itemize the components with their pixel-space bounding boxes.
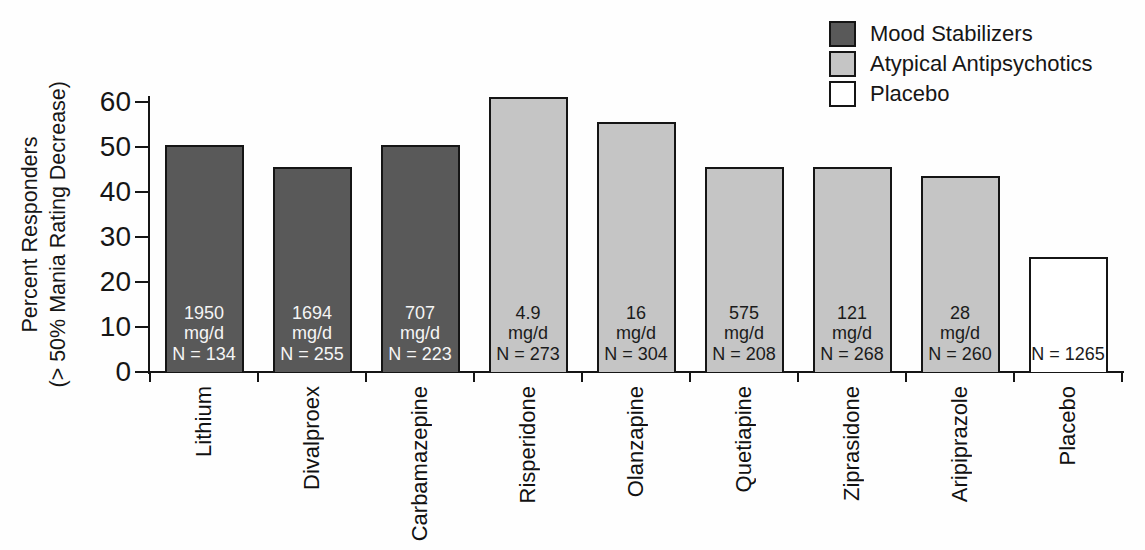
bar: 707 mg/d N = 223 <box>381 145 460 372</box>
bar-n-value: N = 304 <box>599 344 674 364</box>
bar: 1950 mg/d N = 134 <box>165 145 244 372</box>
bar-dose: 28 <box>923 303 998 323</box>
x-tick-mark <box>257 373 259 382</box>
y-axis-title-line2: (> 50% Mania Rating Decrease) <box>45 81 73 388</box>
x-tick-mark <box>689 373 691 382</box>
legend-row-atypical-antipsychotics: Atypical Antipsychotics <box>829 51 1093 77</box>
bar-inner-label: 121 mg/d N = 268 <box>815 303 890 372</box>
bar-dose: 4.9 <box>491 303 566 323</box>
y-tick-mark <box>135 326 148 328</box>
bar-n-value: N = 260 <box>923 344 998 364</box>
bar-dose-unit: mg/d <box>923 323 998 343</box>
legend-row-placebo: Placebo <box>829 81 1093 107</box>
bar: N = 1265 <box>1029 257 1108 372</box>
legend-label: Atypical Antipsychotics <box>870 51 1093 77</box>
y-tick-mark <box>135 146 148 148</box>
bar-dose-unit: mg/d <box>599 323 674 343</box>
bar-n-value: N = 223 <box>383 344 458 364</box>
x-label-column: Ziprasidone <box>798 386 906 550</box>
y-tick-label: 0 <box>76 355 131 389</box>
x-category-label: Carbamazepine <box>407 386 433 541</box>
bar-column: N = 1265 <box>1014 257 1122 372</box>
bar: 4.9 mg/d N = 273 <box>489 97 568 372</box>
bar-dose: 1950 <box>167 303 242 323</box>
y-axis-title: Percent Responders (> 50% Mania Rating D… <box>14 84 76 384</box>
bar: 575 mg/d N = 208 <box>705 167 784 372</box>
legend-label: Placebo <box>870 81 950 107</box>
x-tick-mark <box>581 373 583 382</box>
bar-dose: 16 <box>599 303 674 323</box>
y-tick-label: 50 <box>76 130 131 164</box>
y-tick-mark <box>135 371 148 373</box>
bar-inner-label: 4.9 mg/d N = 273 <box>491 303 566 372</box>
bar-column: 1950 mg/d N = 134 <box>150 145 258 372</box>
legend-swatch-mood-stabilizers <box>829 21 856 47</box>
x-axis-labels: LithiumDivalproexCarbamazepineRisperidon… <box>150 386 1122 550</box>
bar: 28 mg/d N = 260 <box>921 176 1000 372</box>
bar-inner-label: 707 mg/d N = 223 <box>383 303 458 372</box>
bar-dose: 121 <box>815 303 890 323</box>
bar-column: 4.9 mg/d N = 273 <box>474 97 582 372</box>
bar-dose-unit: mg/d <box>383 323 458 343</box>
x-category-label: Divalproex <box>299 386 325 490</box>
x-label-column: Risperidone <box>474 386 582 550</box>
x-label-column: Aripiprazole <box>906 386 1014 550</box>
bar-dose-unit: mg/d <box>815 323 890 343</box>
bar-column: 575 mg/d N = 208 <box>690 167 798 372</box>
bar-inner-label: 16 mg/d N = 304 <box>599 303 674 372</box>
bar-column: 1694 mg/d N = 255 <box>258 167 366 372</box>
x-tick-mark <box>1121 373 1123 382</box>
bar-inner-label: 28 mg/d N = 260 <box>923 303 998 372</box>
bar-dose-unit: mg/d <box>491 323 566 343</box>
legend-swatch-placebo <box>829 81 856 107</box>
bar-n-value: N = 208 <box>707 344 782 364</box>
y-tick-label: 20 <box>76 265 131 299</box>
plot-area: 0102030405060 1950 mg/d N = 134 1694 mg/… <box>148 90 1122 550</box>
bar-n-value: N = 268 <box>815 344 890 364</box>
x-label-column: Olanzapine <box>582 386 690 550</box>
bar: 1694 mg/d N = 255 <box>273 167 352 372</box>
y-tick-mark <box>135 236 148 238</box>
x-category-label: Ziprasidone <box>839 386 865 501</box>
bar-dose: 575 <box>707 303 782 323</box>
bar-inner-label: 1694 mg/d N = 255 <box>275 303 350 372</box>
legend-swatch-atypical-antipsychotics <box>829 51 856 77</box>
x-category-label: Risperidone <box>515 386 541 503</box>
y-tick-label: 30 <box>76 220 131 254</box>
x-label-column: Carbamazepine <box>366 386 474 550</box>
figure-frame: Percent Responders (> 50% Mania Rating D… <box>0 0 1145 550</box>
bar-n-value: N = 134 <box>167 344 242 364</box>
x-tick-mark <box>473 373 475 382</box>
bar-dose: 707 <box>383 303 458 323</box>
x-label-column: Placebo <box>1014 386 1122 550</box>
y-axis-title-line1: Percent Responders <box>17 81 45 388</box>
x-label-column: Divalproex <box>258 386 366 550</box>
bar-dose-unit: mg/d <box>707 323 782 343</box>
y-tick-label: 10 <box>76 310 131 344</box>
bar-dose-unit: mg/d <box>275 323 350 343</box>
x-tick-mark <box>365 373 367 382</box>
legend-label: Mood Stabilizers <box>870 21 1033 47</box>
bars-group: 1950 mg/d N = 134 1694 mg/d N = 255 707 … <box>150 90 1122 372</box>
x-category-label: Placebo <box>1055 386 1081 466</box>
bar-column: 16 mg/d N = 304 <box>582 122 690 372</box>
bar-n-value: N = 1265 <box>1031 344 1106 364</box>
x-tick-mark <box>905 373 907 382</box>
bar-dose: 1694 <box>275 303 350 323</box>
x-label-column: Lithium <box>150 386 258 550</box>
bar-inner-label: N = 1265 <box>1031 344 1106 372</box>
bar-inner-label: 1950 mg/d N = 134 <box>167 303 242 372</box>
x-tick-mark <box>1013 373 1015 382</box>
y-tick-label: 60 <box>76 85 131 119</box>
legend-row-mood-stabilizers: Mood Stabilizers <box>829 21 1093 47</box>
bar-n-value: N = 273 <box>491 344 566 364</box>
bar-column: 121 mg/d N = 268 <box>798 167 906 372</box>
x-tick-mark <box>149 373 151 382</box>
x-category-label: Aripiprazole <box>947 386 973 502</box>
y-tick-mark <box>135 101 148 103</box>
bar: 16 mg/d N = 304 <box>597 122 676 372</box>
x-category-label: Quetiapine <box>731 386 757 492</box>
y-tick-mark <box>135 281 148 283</box>
bar-column: 707 mg/d N = 223 <box>366 145 474 372</box>
x-label-column: Quetiapine <box>690 386 798 550</box>
